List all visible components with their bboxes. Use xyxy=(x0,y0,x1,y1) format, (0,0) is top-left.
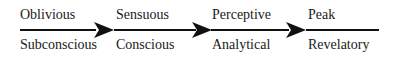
arrow-right-icon xyxy=(94,22,114,38)
arrow-right-icon xyxy=(192,22,212,38)
stage-4-line xyxy=(306,29,379,31)
stage-3-bottom-label: Analytical xyxy=(212,37,270,53)
stage-2-bottom-label: Conscious xyxy=(116,37,174,53)
stage-2-top-label: Sensuous xyxy=(116,7,169,23)
stage-4-bottom-label: Revelatory xyxy=(308,37,369,53)
stage-2-line xyxy=(114,29,196,31)
stage-3-top-label: Perceptive xyxy=(212,7,271,23)
stage-1-line xyxy=(20,29,96,31)
arrow-right-icon xyxy=(286,22,306,38)
stage-1-bottom-label: Subconscious xyxy=(20,37,97,53)
stage-1-top-label: Oblivious xyxy=(20,7,75,23)
stage-3-line xyxy=(211,29,289,31)
stage-4-top-label: Peak xyxy=(308,7,335,23)
